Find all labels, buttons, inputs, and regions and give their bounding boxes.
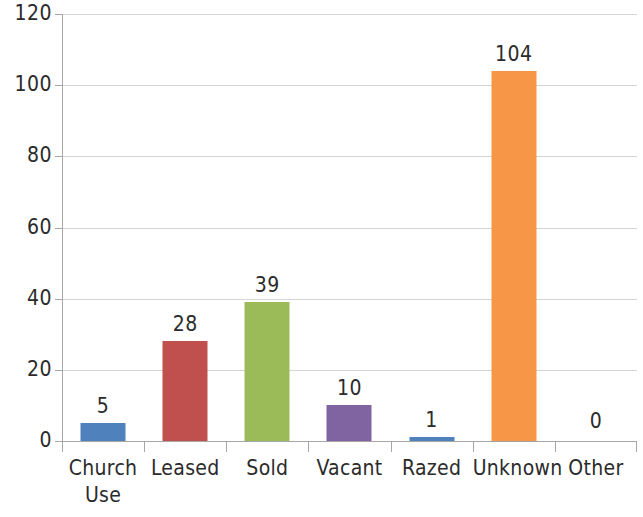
- bar-value-label: 104: [495, 44, 533, 65]
- x-axis-category-label: Other: [555, 455, 637, 482]
- y-axis-tick-label: 100: [0, 74, 52, 95]
- y-axis-tick-label: 0: [0, 430, 52, 451]
- bar-group: 0: [555, 14, 637, 441]
- bar-value-label: 28: [173, 314, 198, 335]
- x-axis-tick-mark: [636, 441, 637, 452]
- bar-value-label: 1: [425, 410, 438, 431]
- bar[interactable]: [245, 302, 290, 441]
- bar-group: 10: [308, 14, 390, 441]
- bar-value-label: 0: [590, 411, 603, 432]
- x-axis-category-label-line: Unknown: [473, 455, 555, 482]
- x-axis-category-label: Sold: [226, 455, 308, 482]
- x-axis-tick-mark: [144, 441, 145, 452]
- y-axis-tick-mark: [55, 14, 63, 15]
- bar[interactable]: [163, 341, 208, 441]
- x-axis-tick-mark: [308, 441, 309, 452]
- x-axis-category-label-line: Sold: [226, 455, 308, 482]
- x-axis-tick-mark: [555, 441, 556, 452]
- y-axis-tick-labels: 020406080100120: [0, 0, 52, 517]
- x-axis-category-label: Razed: [391, 455, 473, 482]
- bar[interactable]: [491, 71, 536, 441]
- y-axis-tick-mark: [55, 156, 63, 157]
- y-axis-tick-mark: [55, 228, 63, 229]
- y-axis-tick-label: 120: [0, 3, 52, 24]
- bar-group: 39: [226, 14, 308, 441]
- bar-group: 5: [62, 14, 144, 441]
- y-axis-tick-mark: [55, 370, 63, 371]
- x-axis-category-label-line: Razed: [391, 455, 473, 482]
- bar[interactable]: [327, 405, 372, 441]
- x-axis-tick-labels: ChurchUseLeasedSoldVacantRazedUnknownOth…: [62, 455, 637, 515]
- y-axis-tick-label: 20: [0, 359, 52, 380]
- x-axis-tick-mark: [226, 441, 227, 452]
- x-axis-category-label: Unknown: [473, 455, 555, 482]
- y-axis-tick-mark: [55, 299, 63, 300]
- x-axis-category-label-line: Church: [62, 455, 144, 482]
- x-axis-category-label: Leased: [144, 455, 226, 482]
- x-axis-category-label-line: Vacant: [308, 455, 390, 482]
- x-axis-category-label: ChurchUse: [62, 455, 144, 509]
- bar-group: 104: [473, 14, 555, 441]
- bar-group: 1: [391, 14, 473, 441]
- x-axis-category-label: Vacant: [308, 455, 390, 482]
- y-axis-tick-mark: [55, 441, 63, 442]
- x-axis-category-label-line: Leased: [144, 455, 226, 482]
- bar-chart: 020406080100120 528391011040 ChurchUseLe…: [0, 0, 643, 517]
- y-axis-tick-label: 80: [0, 145, 52, 166]
- y-axis-tick-label: 40: [0, 288, 52, 309]
- bar-value-label: 5: [97, 396, 110, 417]
- x-axis-tick-mark: [62, 441, 63, 452]
- y-axis-tick-mark: [55, 85, 63, 86]
- bar[interactable]: [81, 423, 126, 441]
- bar-group: 28: [144, 14, 226, 441]
- x-axis-category-label-line: Other: [555, 455, 637, 482]
- bar-value-label: 39: [255, 275, 280, 296]
- y-axis-tick-label: 60: [0, 217, 52, 238]
- x-axis-ticks: [62, 441, 637, 453]
- x-axis-tick-mark: [391, 441, 392, 452]
- x-axis-category-label-line: Use: [62, 482, 144, 509]
- x-axis-tick-mark: [473, 441, 474, 452]
- bar-value-label: 10: [337, 378, 362, 399]
- plot-area: 528391011040: [62, 14, 637, 441]
